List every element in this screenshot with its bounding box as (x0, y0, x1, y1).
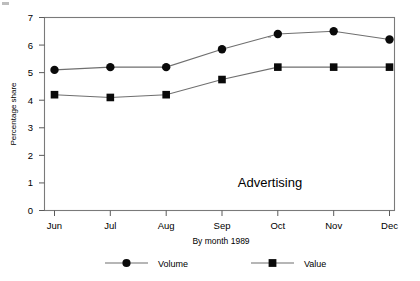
x-axis-ticks (55, 211, 390, 217)
y-axis-tick-labels: 7 6 5 4 3 2 1 0 (28, 12, 33, 216)
data-point-circle-marker[interactable] (50, 66, 58, 74)
x-tick-label: Sep (214, 220, 231, 231)
y-tick-label: 0 (28, 205, 33, 216)
y-axis-ticks (39, 18, 45, 211)
legend-square-marker-icon (269, 259, 277, 267)
legend-label: Value (304, 259, 326, 269)
series-value (51, 63, 394, 101)
y-axis-title: Percentage share (9, 82, 18, 146)
x-tick-label: Nov (325, 220, 342, 231)
y-tick-label: 1 (28, 177, 33, 188)
scan-artifact-speck (2, 2, 9, 5)
x-tick-label: Jun (47, 220, 62, 231)
legend-item-volume[interactable]: Volume (105, 259, 188, 269)
data-point-square-marker[interactable] (51, 91, 59, 99)
x-tick-label: Aug (158, 220, 175, 231)
plot-annotation-advertising: Advertising (238, 175, 302, 190)
legend-circle-marker-icon (122, 259, 130, 267)
data-point-circle-marker[interactable] (274, 30, 282, 38)
data-point-square-marker[interactable] (274, 63, 282, 71)
data-point-square-marker[interactable] (162, 91, 170, 99)
chart-legend: Volume Value (105, 259, 326, 269)
data-point-circle-marker[interactable] (106, 63, 114, 71)
x-tick-label: Oct (270, 220, 285, 231)
y-tick-label: 5 (28, 67, 33, 78)
data-point-circle-marker[interactable] (385, 35, 393, 43)
y-tick-label: 6 (28, 40, 33, 51)
data-point-square-marker[interactable] (330, 63, 338, 71)
series-layer (50, 27, 393, 101)
chart-container: 7 6 5 4 3 2 1 0 Percentage share Jun Jul… (0, 0, 420, 281)
line-chart: 7 6 5 4 3 2 1 0 Percentage share Jun Jul… (0, 0, 420, 281)
y-tick-label: 3 (28, 122, 33, 133)
x-tick-label: Dec (381, 220, 398, 231)
data-point-square-marker[interactable] (107, 94, 115, 102)
data-point-square-marker[interactable] (218, 76, 226, 84)
y-tick-label: 4 (28, 95, 33, 106)
y-tick-label: 2 (28, 150, 33, 161)
data-point-circle-marker[interactable] (329, 27, 337, 35)
legend-label: Volume (158, 259, 188, 269)
data-point-circle-marker[interactable] (218, 45, 226, 53)
x-axis-title: By month 1989 (192, 236, 249, 246)
y-tick-label: 7 (28, 12, 33, 23)
legend-item-value[interactable]: Value (251, 259, 326, 269)
data-point-circle-marker[interactable] (162, 63, 170, 71)
data-point-square-marker[interactable] (386, 63, 394, 71)
x-tick-label: Jul (104, 220, 116, 231)
x-axis-tick-labels: Jun Jul Aug Sep Oct Nov Dec (47, 220, 398, 231)
